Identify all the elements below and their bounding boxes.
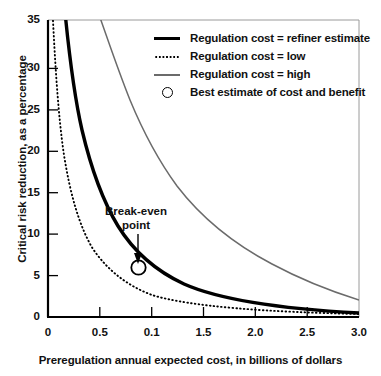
legend-item-high[interactable]: Regulation cost = high: [152, 67, 362, 83]
legend-item-best-estimate[interactable]: Best estimate of cost and benefit: [152, 85, 362, 101]
y-axis-title: Critical risk reduction, as a percentage: [16, 19, 28, 299]
break-even-annotation: Break-even point: [88, 205, 184, 232]
legend: Regulation cost = refiner estimate Regul…: [152, 31, 362, 103]
x-axis-title: Preregulation annual expected cost, in b…: [0, 354, 381, 366]
break-even-annotation-line2: point: [88, 219, 184, 233]
legend-item-refiner-estimate[interactable]: Regulation cost = refiner estimate: [152, 31, 362, 47]
x-tick-label-1-5: 1.5: [184, 327, 224, 339]
legend-label-refiner-estimate: Regulation cost = refiner estimate: [190, 33, 370, 45]
x-tick-label-2-5: 2.5: [287, 327, 327, 339]
x-tick-label-0-5: 0.5: [80, 327, 120, 339]
thick-line-swatch-icon: [152, 32, 182, 46]
open-circle-swatch-icon: [152, 86, 182, 100]
dotted-line-swatch-icon: [152, 50, 182, 64]
legend-label-high: Regulation cost = high: [190, 69, 310, 81]
x-tick-label-3-0: 3.0: [339, 327, 379, 339]
x-tick-label-2-0: 2.0: [235, 327, 275, 339]
legend-item-low[interactable]: Regulation cost = low: [152, 49, 362, 65]
legend-label-low: Regulation cost = low: [190, 51, 305, 63]
y-tick-label-0: 0: [14, 311, 40, 323]
x-tick-label-1-0: 0.1: [132, 327, 172, 339]
y-axis-ticks: [48, 68, 58, 275]
x-tick-label-0: 0: [28, 327, 68, 339]
legend-label-best-estimate: Best estimate of cost and benefit: [190, 87, 365, 99]
break-even-annotation-line1: Break-even: [88, 205, 184, 219]
gray-line-swatch-icon: [152, 68, 182, 82]
annotation-arrow-head: [134, 253, 142, 264]
chart-container: 35 30 25 20 15 10 5 0 0 0.5 0.1 1.5 2.0 …: [0, 0, 381, 376]
x-axis-ticks: [100, 307, 307, 317]
